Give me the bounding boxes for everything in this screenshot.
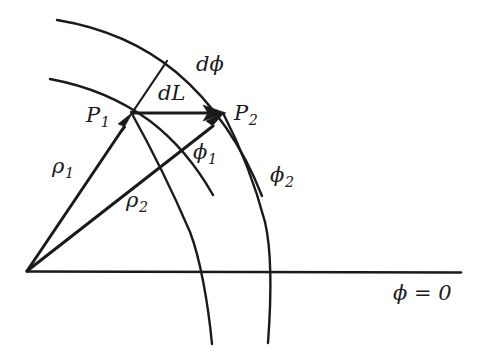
- label-angle-2-subscript: 2: [285, 174, 294, 190]
- label-point-1-subscript: 1: [101, 114, 110, 130]
- label-angle-2: ϕ2: [270, 165, 293, 186]
- label-reference-axis: ϕ = 0: [393, 283, 452, 304]
- label-radius-1: ρ1: [52, 156, 73, 177]
- radial-phi2-curve: [223, 113, 270, 343]
- vector-rho1-arrowhead: [118, 112, 133, 133]
- label-arc-element-base: dL: [158, 81, 185, 105]
- vector-rho2-shaft: [27, 126, 213, 271]
- label-angle-element-base: dϕ: [196, 52, 224, 76]
- label-point-2-subscript: 2: [249, 112, 258, 128]
- label-angle-1-subscript: 1: [208, 151, 217, 167]
- label-arc-element: dL: [158, 83, 185, 104]
- label-angle-1: ϕ1: [193, 142, 216, 163]
- label-angle-1-base: ϕ: [193, 140, 207, 164]
- label-radius-1-base: ρ: [52, 154, 64, 178]
- label-radius-2: ρ2: [126, 190, 147, 211]
- vector-rho1-shaft: [27, 127, 124, 271]
- label-radius-2-subscript: 2: [139, 199, 148, 215]
- label-radius-1-subscript: 1: [65, 165, 74, 181]
- label-reference-axis-base: ϕ = 0: [393, 281, 452, 305]
- label-angle-element: dϕ: [196, 54, 224, 75]
- label-point-1: P1: [86, 105, 109, 126]
- label-angle-2-base: ϕ: [270, 163, 284, 187]
- arc-rho1-curve: [50, 79, 213, 195]
- axis-phi-zero-line: [27, 272, 461, 273]
- label-radius-2-base: ρ: [126, 188, 138, 212]
- label-point-1-base: P: [86, 103, 100, 127]
- label-point-2-base: P: [234, 101, 248, 125]
- polar-arc-diagram: P1 P2 dL dϕ ρ1 ρ2 ϕ1 ϕ2 ϕ = 0: [0, 0, 483, 354]
- label-point-2: P2: [234, 103, 257, 124]
